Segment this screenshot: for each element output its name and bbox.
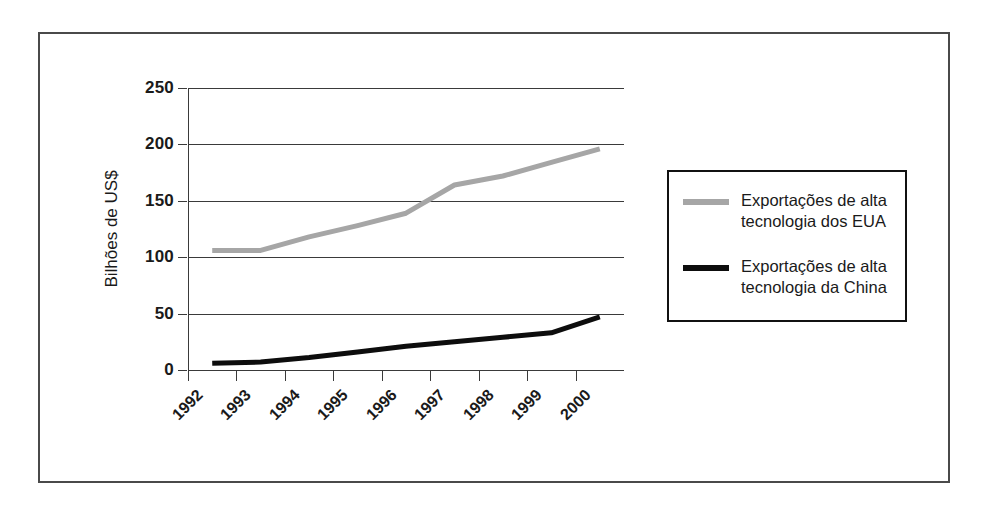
- y-tick-label: 250: [145, 78, 174, 98]
- series-line: [212, 317, 600, 363]
- series-line: [212, 149, 600, 251]
- x-tick-mark: [285, 370, 286, 381]
- x-tick-label: 1994: [266, 386, 304, 424]
- y-tick-mark: [178, 370, 187, 371]
- x-tick-label: 1996: [363, 386, 401, 424]
- y-tick-mark: [178, 88, 187, 89]
- y-tick-label: 200: [145, 134, 174, 154]
- x-tick-mark: [333, 370, 334, 381]
- x-tick-mark: [479, 370, 480, 381]
- y-tick-label: 150: [145, 191, 174, 211]
- x-tick-mark: [430, 370, 431, 381]
- y-tick-mark: [178, 144, 187, 145]
- x-tick-mark: [576, 370, 577, 381]
- y-tick-mark: [178, 257, 187, 258]
- x-tick-label: 1993: [217, 386, 255, 424]
- plot-area: 050100150200250 199219931994199519961997…: [188, 88, 624, 370]
- y-tick-mark: [178, 314, 187, 315]
- x-tick-mark: [236, 370, 237, 381]
- x-tick-mark: [382, 370, 383, 381]
- x-tick-label: 1999: [508, 386, 546, 424]
- y-tick-label: 100: [145, 247, 174, 267]
- legend-swatch-china: [683, 265, 729, 271]
- y-axis-title: Bilhões de US$: [100, 88, 124, 370]
- legend-label: Exportações de alta tecnologia dos EUA: [741, 190, 887, 232]
- x-tick-label: 1992: [169, 386, 207, 424]
- x-tick-mark: [527, 370, 528, 381]
- y-axis-title-text: Bilhões de US$: [102, 170, 122, 287]
- x-tick-label: 2000: [556, 386, 594, 424]
- x-tick-label: 1997: [411, 386, 449, 424]
- legend-label: Exportações de alta tecnologia da China: [741, 256, 887, 298]
- legend-item[interactable]: Exportações de alta tecnologia dos EUA: [683, 190, 887, 232]
- y-tick-label: 50: [155, 304, 174, 324]
- y-tick-label: 0: [164, 360, 174, 380]
- x-tick-label: 1998: [459, 386, 497, 424]
- series-lines: [188, 88, 624, 370]
- y-tick-mark: [178, 201, 187, 202]
- x-tick-label: 1995: [314, 386, 352, 424]
- x-axis-line: [188, 370, 624, 371]
- legend: Exportações de alta tecnologia dos EUAEx…: [667, 170, 907, 322]
- chart-figure-frame: Bilhões de US$ 050100150200250 199219931…: [38, 32, 950, 483]
- x-tick-mark: [188, 370, 189, 381]
- legend-swatch-eua: [683, 199, 729, 205]
- legend-item[interactable]: Exportações de alta tecnologia da China: [683, 256, 887, 298]
